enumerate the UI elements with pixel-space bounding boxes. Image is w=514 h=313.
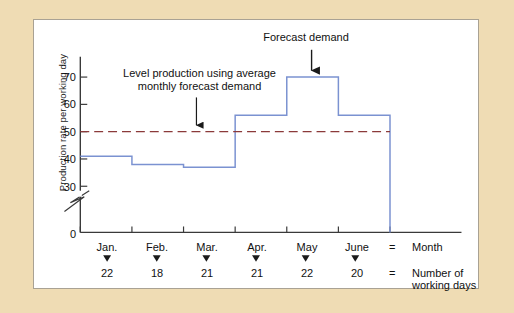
pointer-triangle-jan xyxy=(103,255,111,261)
pointer-triangle-mar xyxy=(202,255,210,261)
pointer-triangle-feb xyxy=(153,255,161,261)
pointer-triangle-may xyxy=(302,255,310,261)
figure-panel: Production rate per working day 70 60 50… xyxy=(33,19,479,289)
chart-plot-area xyxy=(34,20,478,288)
pointer-triangle-june xyxy=(351,255,359,261)
pointer-triangle-apr xyxy=(252,255,260,261)
forecast-demand-step-line xyxy=(80,77,390,232)
axis-break-symbol xyxy=(64,191,89,212)
